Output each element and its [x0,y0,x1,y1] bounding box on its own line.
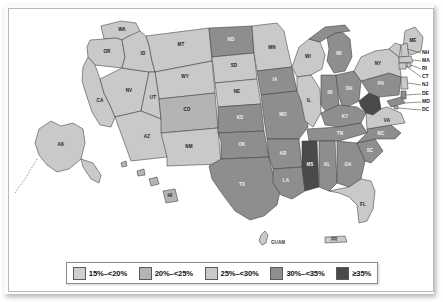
leader-line-CT [406,66,421,77]
screenshot-root: WA OR CA NV ID MT WY UT AZ CO NM ND SD N… [0,0,443,302]
leader-label-NJ: NJ [422,81,429,87]
label-HI: HI [168,193,173,198]
label-GA: GA [344,162,352,167]
state-HI-2[interactable] [137,169,145,176]
state-CO[interactable] [159,93,218,133]
label-CA: CA [97,98,104,103]
legend-swatch-2 [139,267,152,280]
label-NY: NY [375,61,382,66]
label-UT: UT [150,95,156,100]
label-AK: AK [58,142,65,147]
leader-label-MD: MD [422,98,430,104]
legend-label-2: 20%–<25% [155,269,193,278]
state-AK-panhandle[interactable] [81,159,101,183]
label-KS: KS [237,115,244,120]
legend-swatch-5 [336,267,349,280]
state-HI-1[interactable] [121,161,127,167]
prevalence-legend: 15%–<20% 20%–<25% 25%–<30% 30%–<35% ≥35% [66,262,378,284]
leader-label-CT: CT [422,73,429,79]
leader-line-DE [406,94,421,95]
legend-label-4: 30%–<35% [286,269,324,278]
legend-item-2[interactable]: 20%–<25% [139,267,193,280]
label-MT: MT [178,42,185,47]
label-IA: IA [273,77,278,82]
label-LA: LA [283,178,290,183]
leader-label-MA: MA [422,57,430,63]
leader-line-NJ [408,83,421,85]
leader-label-RI: RI [422,65,428,71]
legend-swatch-1 [73,267,86,280]
legend-item-5[interactable]: ≥35% [336,267,371,280]
label-OK: OK [238,142,246,147]
label-MS: MS [306,162,313,167]
label-SC: SC [367,148,374,153]
legend-swatch-3 [205,267,218,280]
label-VA: VA [384,118,391,123]
label-ND: ND [228,37,235,42]
label-TN: TN [337,131,344,136]
legend-label-3: 25%–<30% [221,269,259,278]
state-NJ[interactable] [401,77,408,89]
legend-item-4[interactable]: 30%–<35% [270,267,324,280]
leader-line-RI [411,65,421,69]
label-CO: CO [183,107,190,112]
state-TX[interactable] [209,157,281,220]
label-WI: WI [305,54,311,59]
state-FL[interactable] [329,179,375,223]
label-SD: SD [231,63,238,68]
leader-line-MD [405,102,421,103]
label-IL: IL [307,98,311,103]
label-NE: NE [234,89,241,94]
label-FL: FL [360,202,366,207]
state-MA[interactable] [399,56,413,63]
leader-line-DC [398,108,421,110]
label-NM: NM [185,144,192,149]
label-ID: ID [141,51,146,56]
label-AR: AR [280,151,287,156]
state-RI[interactable] [407,63,411,67]
territory-GUAM[interactable] [259,231,268,245]
state-HI-3[interactable] [149,177,159,186]
leader-line-MA [413,60,421,61]
legend-label-5: ≥35% [352,269,371,278]
label-NV: NV [126,88,133,93]
state-MD[interactable] [387,97,405,107]
state-DC[interactable] [394,106,398,109]
label-AL: AL [324,162,330,167]
label-KY: KY [342,114,349,119]
label-MI: MI [336,51,341,56]
label-WA: WA [118,27,126,32]
legend-item-1[interactable]: 15%–<20% [73,267,127,280]
label-ME: ME [409,38,416,43]
leader-label-NH: NH [422,49,430,55]
label-IN: IN [328,90,333,95]
legend-item-3[interactable]: 25%–<30% [205,267,259,280]
us-choropleth-map: WA OR CA NV ID MT WY UT AZ CO NM ND SD N… [9,9,431,254]
legend-swatch-4 [270,267,283,280]
label-OH: OH [345,86,353,91]
legend-label-1: 15%–<20% [89,269,127,278]
label-AZ: AZ [144,134,150,139]
aleutian-chain [15,159,37,193]
state-AZ[interactable] [115,111,167,161]
label-PA: PA [378,81,385,86]
label-NC: NC [378,131,385,136]
state-CT[interactable] [399,63,406,69]
leader-label-DE: DE [422,90,430,96]
label-MN: MN [268,45,276,50]
label-TX: TX [239,182,246,187]
label-OR: OR [103,49,111,54]
leader-label-DC: DC [422,106,430,112]
map-svg: WA OR CA NV ID MT WY UT AZ CO NM ND SD N… [9,9,431,254]
label-MO: MO [279,112,287,117]
label-WY: WY [181,74,189,79]
label-GUAM: GUAM [271,240,285,245]
label-PR: PR [331,237,338,242]
